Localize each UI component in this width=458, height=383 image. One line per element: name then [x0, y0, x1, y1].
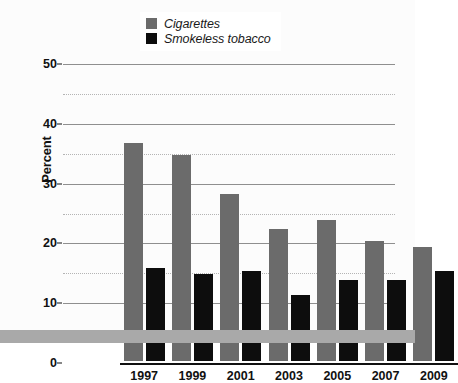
bar-smokeless-tobacco-2003	[291, 295, 310, 361]
x-axis-line	[120, 363, 458, 365]
gridline-minor	[63, 94, 395, 95]
bottom-band	[0, 330, 415, 343]
y-tick-mark	[57, 123, 62, 124]
y-tick-mark	[57, 363, 62, 364]
bar-smokeless-tobacco-1997	[146, 268, 165, 361]
y-tick-label: 10	[43, 296, 57, 310]
gridline-major	[63, 64, 395, 65]
legend-label-smokeless-tobacco: Smokeless tobacco	[164, 32, 271, 46]
x-tick-label-2009: 2009	[410, 369, 458, 383]
gridline-major	[63, 124, 395, 125]
y-tick-label: 30	[43, 177, 57, 191]
gridline-minor	[63, 154, 395, 155]
plot-area: 01020304050 1997199920012003200520072009	[63, 62, 395, 302]
y-tick-label: 50	[43, 57, 57, 71]
y-tick-mark	[57, 183, 62, 184]
y-tick-mark	[57, 64, 62, 65]
y-tick-label: 40	[43, 117, 57, 131]
x-tick-label-2003: 2003	[265, 369, 313, 383]
x-tick-label-1999: 1999	[168, 369, 216, 383]
y-tick-label: 0	[50, 356, 57, 370]
legend-item-cigarettes: Cigarettes	[146, 16, 271, 31]
chart-legend: Cigarettes Smokeless tobacco	[140, 12, 281, 51]
black-swatch-icon	[146, 33, 157, 44]
gray-swatch-icon	[146, 18, 157, 29]
gridline-major	[63, 184, 395, 185]
x-tick-label-1997: 1997	[120, 369, 168, 383]
bar-smokeless-tobacco-2005	[339, 280, 358, 361]
bar-smokeless-tobacco-1999	[194, 274, 213, 361]
legend-item-smokeless-tobacco: Smokeless tobacco	[146, 31, 271, 46]
bar-cigarettes-2007	[365, 241, 384, 361]
legend-label-cigarettes: Cigarettes	[164, 17, 220, 31]
y-tick-mark	[57, 243, 62, 244]
x-tick-label-2001: 2001	[217, 369, 265, 383]
bar-cigarettes-2009	[413, 247, 432, 361]
bar-smokeless-tobacco-2009	[435, 271, 454, 361]
y-tick-mark	[57, 303, 62, 304]
bar-smokeless-tobacco-2007	[387, 280, 406, 361]
y-tick-label: 20	[43, 236, 57, 250]
bar-smokeless-tobacco-2001	[242, 271, 261, 361]
bar-cigarettes-1997	[124, 143, 143, 361]
x-tick-label-2007: 2007	[361, 369, 409, 383]
x-tick-label-2005: 2005	[313, 369, 361, 383]
